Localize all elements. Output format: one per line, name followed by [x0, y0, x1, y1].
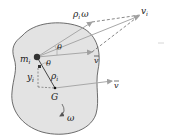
label-rho-omega: ρiω: [72, 9, 89, 20]
label-v-i: vi: [141, 6, 148, 17]
label-vbar-top: v: [94, 56, 99, 65]
particle-m-i: [34, 54, 40, 60]
rigid-body-kinematics-diagram: vi ρiω θ v mi θ yi ρi G v ω: [0, 0, 173, 140]
label-omega: ω: [67, 113, 75, 123]
label-theta-mid: θ: [46, 59, 51, 68]
label-theta-top: θ: [57, 43, 62, 52]
label-G: G: [51, 92, 58, 102]
center-of-mass-dot: [54, 87, 57, 90]
right-angle-marker: [38, 65, 41, 68]
dashed-line-bottom: [92, 15, 140, 52]
label-vbar-G: v: [114, 81, 119, 90]
